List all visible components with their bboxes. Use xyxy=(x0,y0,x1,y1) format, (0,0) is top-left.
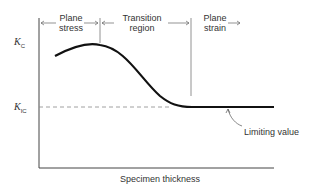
toughness-curve xyxy=(55,44,274,107)
kic-label: KIC xyxy=(14,101,27,114)
region-label-line: Plane xyxy=(55,13,87,23)
region-plane-stress: Plane stress xyxy=(55,13,87,33)
annotation-arrowhead xyxy=(226,109,230,113)
region-label-line: Plane xyxy=(200,13,230,23)
region-plane-strain: Plane strain xyxy=(200,13,230,33)
kc-label: KC xyxy=(14,36,25,49)
annotation-leader xyxy=(228,109,242,126)
x-axis-label: Specimen thickness xyxy=(100,174,220,184)
region-label-line: stress xyxy=(55,23,87,33)
region-label-line: Transition xyxy=(114,13,170,23)
region-label-line: strain xyxy=(200,23,230,33)
region-label-line: region xyxy=(114,23,170,33)
region-transition: Transition region xyxy=(114,13,170,33)
limiting-value-annotation: Limiting value xyxy=(244,127,311,137)
